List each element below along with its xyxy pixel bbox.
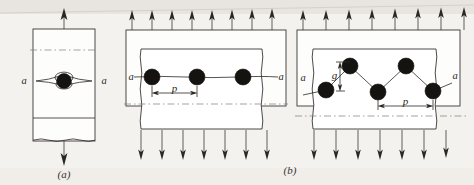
panel-b-right-crack — [398, 58, 414, 74]
panel-a-caption: (a) — [58, 168, 71, 181]
figure-root: a a (a) — [0, 0, 474, 185]
figure-svg: a a (a) — [0, 0, 474, 185]
panel-b-left-label-p: p — [171, 82, 178, 94]
panel-b-left-crack — [144, 69, 160, 85]
panel-b-right-crack — [425, 83, 441, 99]
panel-a-label-a-left: a — [21, 75, 26, 86]
panel-b-left-inner-plate — [140, 49, 263, 129]
panel-a-crack-core — [57, 74, 72, 89]
panel-b-left-label-a-left: a — [128, 71, 133, 82]
scan-smudge-bottom — [0, 168, 474, 185]
panel-b-right-crack — [318, 82, 334, 98]
panel-b-right-crack — [370, 84, 386, 100]
panel-b-right-label-p: p — [402, 95, 409, 107]
panel-a-label-a-right: a — [101, 75, 106, 86]
panel-b-left-crack — [189, 69, 205, 85]
panel-b-right-label-g: g — [332, 69, 338, 81]
panel-b-right-label-a-left: a — [300, 72, 305, 83]
panel-b-caption: (b) — [284, 164, 297, 177]
panel-b-right-label-a-right: a — [452, 70, 457, 81]
panel-b-left-label-a-right: a — [278, 71, 283, 82]
panel-b-left-crack — [235, 69, 251, 85]
panel-b-right-crack — [342, 58, 358, 74]
